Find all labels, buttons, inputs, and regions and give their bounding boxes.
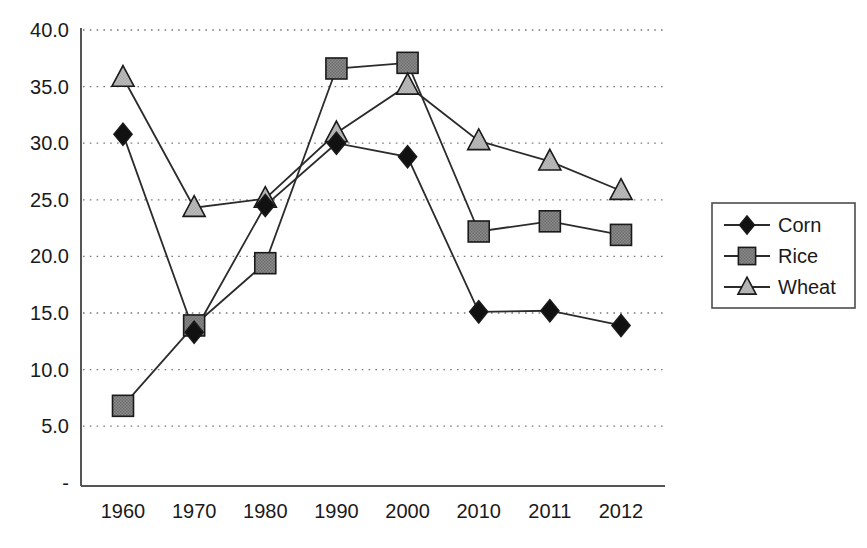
- y-axis-tick-label: 20.0: [30, 245, 69, 267]
- chart-legend[interactable]: CornRiceWheat: [712, 203, 855, 308]
- data-point-marker-square: [738, 247, 755, 264]
- data-point-marker-square: [113, 395, 134, 416]
- data-point-marker-square: [255, 253, 276, 274]
- y-axis-tick-label: 15.0: [30, 302, 69, 324]
- legend-label-rice[interactable]: Rice: [778, 245, 818, 267]
- x-axis-tick-label: 1990: [314, 500, 359, 522]
- line-chart: 40.035.030.025.020.015.010.05.0- 1960197…: [0, 0, 867, 548]
- y-axis-tick-label: 25.0: [30, 189, 69, 211]
- y-axis-tick-label: -: [62, 472, 69, 494]
- data-point-marker-square: [539, 211, 560, 232]
- x-axis-tick-label: 1970: [172, 500, 217, 522]
- x-axis-tick-label: 2011: [528, 500, 571, 522]
- x-axis-tick-label: 2010: [456, 500, 501, 522]
- data-point-marker-square: [468, 221, 489, 242]
- y-axis-tick-label: 35.0: [30, 76, 69, 98]
- x-axis-tick-label: 1960: [101, 500, 146, 522]
- x-axis-tick-label: 2000: [385, 500, 430, 522]
- data-point-marker-square: [397, 52, 418, 73]
- legend-label-corn[interactable]: Corn: [778, 214, 821, 236]
- x-axis-tick-label: 2012: [599, 500, 644, 522]
- legend-label-wheat[interactable]: Wheat: [778, 276, 836, 298]
- chart-container: 40.035.030.025.020.015.010.05.0- 1960197…: [0, 0, 867, 548]
- y-axis-tick-label: 40.0: [30, 19, 69, 41]
- data-point-marker-square: [326, 58, 347, 79]
- x-axis-tick-label: 1980: [243, 500, 288, 522]
- y-axis-tick-label: 10.0: [30, 359, 69, 381]
- y-axis-tick-label: 5.0: [41, 415, 69, 437]
- data-point-marker-square: [611, 224, 632, 245]
- y-axis-tick-label: 30.0: [30, 132, 69, 154]
